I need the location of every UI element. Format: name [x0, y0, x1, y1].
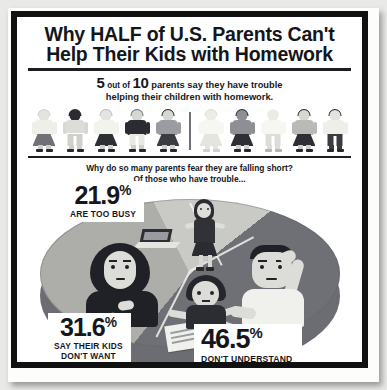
- lower-body-shape: [293, 134, 316, 146]
- eye-left: [200, 208, 202, 210]
- shoe-left: [160, 149, 167, 152]
- torso-shape: [233, 120, 252, 135]
- poster-frame: Why HALF of U.S. Parents Can't Help Thei…: [11, 11, 368, 368]
- shoe-left: [98, 149, 105, 152]
- mouth-shape: [266, 278, 277, 280]
- person-figure: [198, 110, 225, 152]
- shoe-left: [36, 149, 43, 152]
- stat-subtitle: 5 out of 10 parents say they have troubl…: [26, 77, 353, 103]
- person-figure: [229, 110, 256, 152]
- person-figure: [260, 110, 287, 152]
- shoe-left: [196, 267, 204, 271]
- caption-line-1: DON'T UNDERSTAND: [201, 354, 293, 362]
- percent-number: 31.6: [60, 313, 105, 341]
- mouth-shape: [116, 278, 125, 280]
- eye-right: [210, 291, 214, 295]
- shoe-left: [296, 149, 303, 152]
- percent-symbol: %: [119, 183, 131, 198]
- question-line-2: Of those who have trouble...: [133, 174, 245, 184]
- people-divider: [28, 156, 351, 158]
- torso-shape: [159, 120, 178, 135]
- face-shape: [197, 203, 211, 218]
- busy-woman-illustration: [182, 197, 228, 275]
- stat-tail: parents say they have trouble: [151, 80, 282, 90]
- shoe-right: [139, 149, 146, 152]
- lower-body-shape: [33, 134, 56, 146]
- torso-shape: [128, 120, 147, 135]
- lower-body-shape: [231, 134, 254, 146]
- eyebrow-left: [109, 260, 117, 262]
- callout-dont-understand: 46.5% DON'T UNDERSTAND THE MATERIAL: [194, 324, 302, 362]
- stat-out-of: out of: [107, 81, 130, 90]
- shoe-right: [275, 149, 282, 152]
- caption-line-2: DON'T WANT: [61, 351, 116, 361]
- person-figure: [155, 110, 182, 152]
- callout-too-busy: 21.9% ARE TOO BUSY: [64, 181, 144, 222]
- lower-body-shape: [157, 134, 180, 146]
- percent-number: 46.5: [201, 324, 250, 354]
- torso-shape: [35, 120, 54, 135]
- torso-shape: [66, 120, 85, 133]
- infographic-poster: Why HALF of U.S. Parents Can't Help Thei…: [0, 0, 387, 390]
- eye-left: [197, 291, 201, 295]
- shoe-left: [265, 149, 272, 152]
- skirt-shape: [192, 242, 218, 256]
- face-shape: [104, 251, 136, 289]
- people-group-trouble: [31, 110, 182, 152]
- people-group-no-trouble: [198, 110, 349, 152]
- eye-left: [260, 265, 264, 269]
- torso-shape: [194, 219, 215, 243]
- person-figure: [31, 110, 58, 152]
- percent-symbol: %: [250, 325, 263, 341]
- person-figure: [124, 110, 151, 152]
- title-line-2: Help Their Kids with Homework: [26, 44, 353, 64]
- confused-man-illustration: [236, 245, 334, 331]
- stat-line-2: helping their children with homework.: [106, 92, 273, 102]
- question-line-1: Why do so many parents fear they are fal…: [86, 163, 293, 173]
- shoe-right: [108, 149, 115, 152]
- callout-caption: SAY THEIR KIDS DON'T WANT THEIR HELP: [54, 341, 123, 362]
- torso-shape: [97, 120, 116, 135]
- torso-shape: [326, 120, 345, 135]
- person-figure: [93, 110, 120, 152]
- lower-body-shape: [200, 134, 223, 146]
- page-title: Why HALF of U.S. Parents Can't Help Thei…: [26, 24, 353, 64]
- lower-body-shape: [95, 134, 118, 146]
- shoe-left: [67, 149, 74, 152]
- eyebrow-right: [123, 260, 131, 262]
- percent-value: 46.5%: [201, 326, 293, 353]
- pie-chart-section: 21.9% ARE TOO BUSY 31.6% SAY THEIR KIDS …: [26, 185, 353, 362]
- percent-symbol: %: [105, 315, 117, 330]
- eye-left: [111, 265, 115, 269]
- person-figure: [291, 110, 318, 152]
- percent-number: 21.9: [75, 181, 120, 209]
- caption-line-3: THEIR HELP: [63, 361, 115, 362]
- people-group-divider: [189, 112, 191, 150]
- callout-caption: DON'T UNDERSTAND THE MATERIAL: [201, 354, 293, 362]
- eye-right: [207, 208, 209, 210]
- face-shape: [192, 281, 219, 307]
- person-figure: [62, 110, 89, 152]
- shoe-right: [77, 149, 84, 152]
- caption-line-1: SAY THEIR KIDS: [54, 341, 123, 351]
- eye-right: [125, 265, 129, 269]
- torso-shape: [295, 120, 314, 135]
- eye-right: [278, 265, 282, 269]
- shoe-right: [170, 149, 177, 152]
- people-row: [26, 108, 353, 152]
- shoe-right: [337, 149, 344, 152]
- eyebrow-left: [258, 260, 267, 262]
- shoe-left: [129, 149, 136, 152]
- shoe-right: [206, 267, 214, 271]
- shoe-left: [234, 149, 241, 152]
- title-line-1: Why HALF of U.S. Parents Can't: [44, 23, 334, 45]
- shoe-right: [213, 149, 220, 152]
- percent-value: 31.6%: [54, 315, 123, 340]
- title-divider: [28, 68, 351, 71]
- stat-number-b: 10: [133, 74, 149, 91]
- torso-shape: [202, 120, 221, 135]
- shoe-left: [327, 149, 334, 152]
- mouth-shape: [202, 300, 210, 302]
- shoe-right: [244, 149, 251, 152]
- shoe-left: [203, 149, 210, 152]
